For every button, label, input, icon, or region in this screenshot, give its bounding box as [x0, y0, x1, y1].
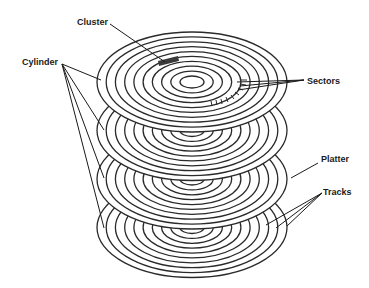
tracks-label: Tracks [323, 187, 352, 197]
cluster-label: Cluster [77, 17, 109, 27]
disk-diagram: Cluster Cylinder Sectors Platter Tracks [0, 0, 369, 288]
cylinder-label: Cylinder [22, 57, 59, 67]
platter-stack [97, 32, 287, 278]
platter-1 [97, 32, 287, 132]
platter-label: Platter [321, 154, 350, 164]
sectors-label: Sectors [307, 76, 340, 86]
